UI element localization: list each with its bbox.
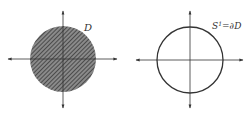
diagram-canvas: D S1=∂D: [0, 0, 247, 114]
disk-figure: D: [8, 11, 117, 108]
circle-figure: S1=∂D: [136, 11, 243, 108]
circle-label-rest: =∂D: [222, 21, 241, 31]
disk-label: D: [83, 22, 92, 33]
circle-label: S1=∂D: [212, 20, 241, 31]
